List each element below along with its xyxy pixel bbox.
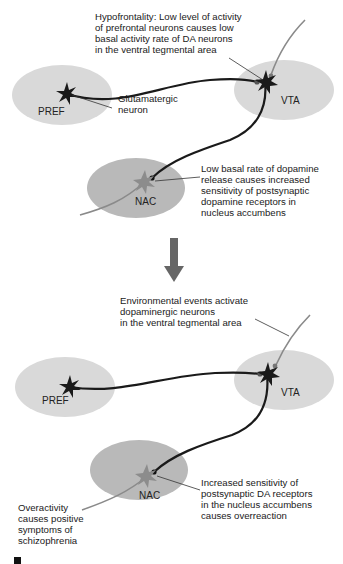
hypofrontality-annotation: Hypofrontality: Low level of activity of… xyxy=(95,11,244,55)
leader-environmental xyxy=(255,319,289,336)
vta-label-top: VTA xyxy=(281,95,300,106)
down-arrow-icon xyxy=(164,238,184,282)
bottom-panel: PREF VTA NAC Environmental events activa… xyxy=(15,295,334,546)
overactivity-annotation: Overactivity causes positive symptoms of… xyxy=(18,502,86,546)
nac-label-bottom: NAC xyxy=(139,490,160,501)
low-basal-annotation: Low basal rate of dopamine release cause… xyxy=(201,163,322,218)
vta-label-bottom: VTA xyxy=(281,387,300,398)
vta-region-top xyxy=(234,60,334,120)
increased-sensitivity-annotation: Increased sensitivity of postsynaptic DA… xyxy=(201,477,315,521)
nac-region-top xyxy=(87,158,185,218)
schizophrenia-dopamine-diagram: PREF VTA NAC Hypofrontality: Low level o… xyxy=(0,0,343,564)
figure-marker xyxy=(14,557,21,564)
nac-label-top: NAC xyxy=(135,196,156,207)
environmental-annotation: Environmental events activate dopaminerg… xyxy=(120,295,251,328)
pref-label-top: PREF xyxy=(38,106,65,117)
top-panel: PREF VTA NAC Hypofrontality: Low level o… xyxy=(12,11,334,218)
pref-label-bottom: PREF xyxy=(42,395,69,406)
glutamatergic-annotation: Glutamatergic neuron xyxy=(118,93,180,115)
vta-region-bottom xyxy=(234,350,334,410)
